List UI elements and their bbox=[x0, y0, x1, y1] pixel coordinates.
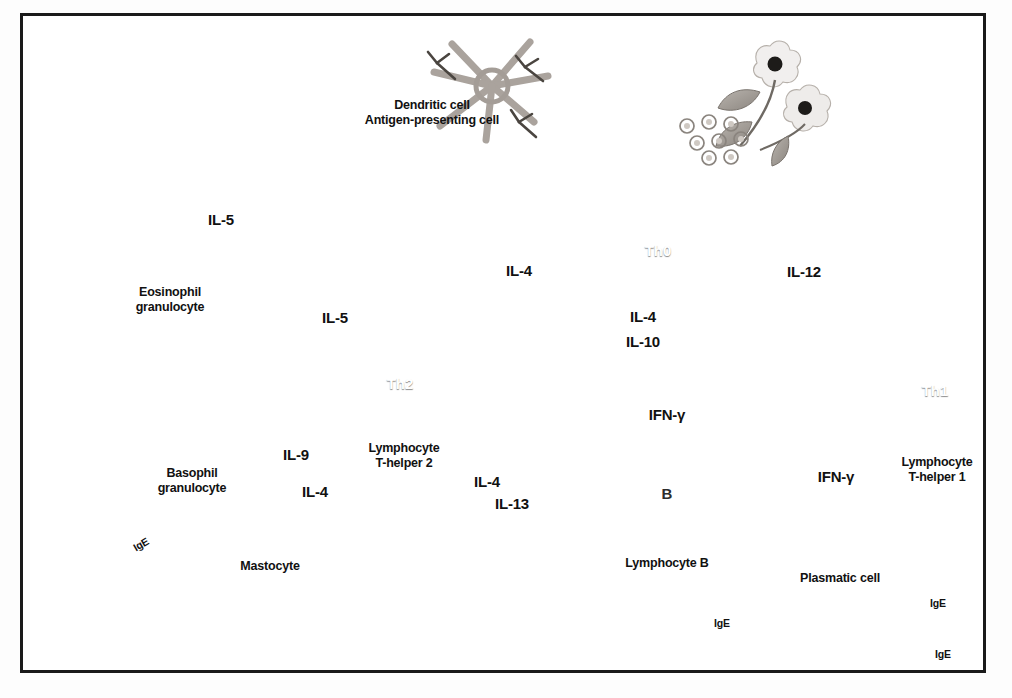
mastocyte-label: Mastocyte bbox=[240, 559, 299, 574]
cytokine-label-il4-th0-th2: IL-4 bbox=[506, 262, 532, 280]
basophil-label: Basophil granulocyte bbox=[158, 466, 227, 496]
cytokine-label-il5-b: IL-5 bbox=[322, 309, 348, 327]
cytokine-label-il4-mast: IL-4 bbox=[302, 483, 328, 501]
cytokine-label-il13: IL-13 bbox=[495, 495, 529, 513]
th0-cell-tag: Th0 bbox=[645, 242, 672, 259]
cytokine-label-il5-a: IL-5 bbox=[208, 211, 234, 229]
cytokine-label-il12: IL-12 bbox=[787, 263, 821, 281]
th2-cell-label: Lymphocyte T-helper 2 bbox=[368, 441, 439, 471]
plasmatic-cell-label: Plasmatic cell bbox=[800, 571, 880, 586]
ige-label-plasma-right-bottom: IgE bbox=[935, 648, 951, 660]
th2-cell-tag: Th2 bbox=[387, 375, 414, 392]
diagram-canvas: Dendritic cell Antigen-presenting cell T… bbox=[0, 0, 1012, 698]
cytokine-label-il10: IL-10 bbox=[626, 333, 660, 351]
cytokine-label-ifng-b: IFN-γ bbox=[818, 468, 855, 486]
cytokine-label-il4-th2-supp: IL-4 bbox=[630, 308, 656, 326]
th1-cell-label: Lymphocyte T-helper 1 bbox=[901, 455, 972, 485]
b-cell-tag: B bbox=[662, 485, 673, 502]
eosinophil-label: Eosinophil granulocyte bbox=[136, 285, 205, 315]
dendritic-cell-label: Dendritic cell Antigen-presenting cell bbox=[365, 98, 499, 128]
cytokine-label-il9: IL-9 bbox=[283, 446, 309, 464]
cytokine-label-il4-bcell: IL-4 bbox=[474, 473, 500, 491]
b-cell-label: Lymphocyte B bbox=[625, 556, 708, 571]
cytokine-label-ifng-a: IFN-γ bbox=[649, 406, 686, 424]
ige-label-plasma-right-top: IgE bbox=[930, 597, 946, 609]
ige-label-plasma-left: IgE bbox=[714, 617, 730, 629]
th1-cell-tag: Th1 bbox=[922, 382, 949, 399]
